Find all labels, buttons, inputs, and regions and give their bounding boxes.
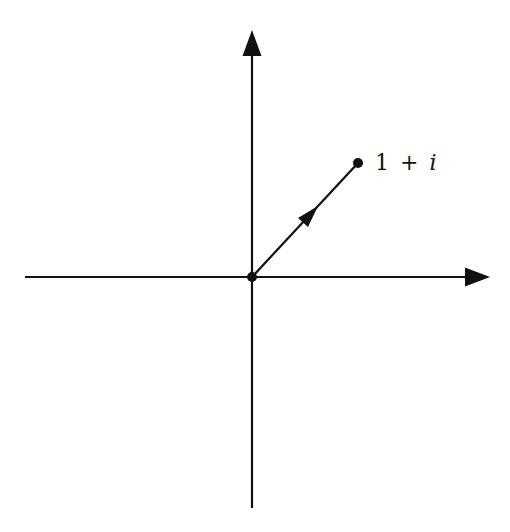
vector-1-plus-i	[252, 163, 358, 277]
origin-point	[247, 272, 257, 282]
label-real-part: 1	[375, 150, 389, 175]
label-operator: +	[400, 150, 418, 175]
complex-plane-diagram: 1 + i	[0, 0, 510, 532]
point-label: 1 + i	[375, 150, 436, 175]
real-axis-arrow-icon	[465, 268, 490, 287]
label-imaginary-part: i	[429, 150, 436, 175]
endpoint-1-plus-i	[353, 158, 363, 168]
imaginary-axis-arrow-icon	[243, 30, 262, 56]
